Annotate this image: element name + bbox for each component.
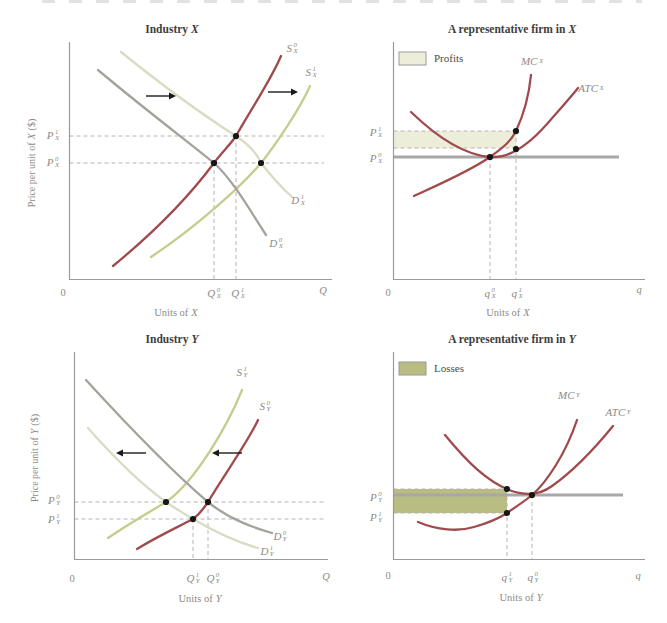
price-label-p1-y: P1Y (48, 513, 60, 525)
sym-sub: X (301, 200, 305, 206)
equilibrium-dot (504, 510, 510, 516)
axis-end-label-q: q (635, 570, 640, 581)
sym-supsub: X (600, 85, 604, 91)
supply-shift-arrow-x (268, 89, 298, 96)
industry-x-axis-caption: Units ofX (154, 307, 198, 318)
curve-label-s1-y: S1Y (237, 366, 248, 378)
sym-supsub: 0X (293, 42, 297, 54)
sym-sub: Y (509, 577, 513, 583)
sym-base: P (47, 156, 54, 168)
sym-supsub: 0X (279, 237, 283, 249)
sym-base: D (260, 545, 268, 557)
sym-supsub: 1Y (378, 511, 382, 523)
curve-label-d0-y: D0Y (273, 530, 286, 542)
sym-supsub: 0Y (283, 530, 287, 542)
sym-supsub: Y (627, 409, 631, 415)
equilibrium-dot (504, 486, 510, 492)
sym-base: P (370, 491, 377, 503)
sym-supsub: 1Y (509, 571, 513, 583)
sym-base: MC (521, 55, 538, 67)
sym-sub: X (378, 132, 382, 138)
price-label-p0-y-firm: P0Y (370, 491, 382, 503)
firm-x-title: A representative firm inX (448, 23, 576, 35)
sym-base: P (370, 511, 377, 523)
sym-sub: X (55, 162, 59, 168)
equilibrium-dot (513, 128, 519, 134)
equilibrium-dot (513, 146, 519, 152)
curve-label-d1-x: D1X (291, 194, 305, 206)
sym-supsub: 0X (491, 287, 495, 299)
sym-base: P (370, 152, 377, 164)
sym-base: S (237, 366, 243, 378)
sym-supsub: 0Y (216, 572, 220, 584)
price-label-p1-y-firm: P1Y (370, 511, 382, 523)
industry-x-plot (70, 42, 333, 280)
sym-sub: X (279, 243, 283, 249)
sym-base: S (260, 400, 266, 412)
industry-y-plot (75, 352, 329, 560)
equilibrium-dot (163, 499, 169, 505)
curve-label-atc-y: ATCY (605, 406, 630, 418)
sym-sub: X (217, 293, 221, 299)
sym-supsub: 1Y (196, 572, 200, 584)
sym-sub: Y (627, 409, 631, 415)
profit-legend-swatch (399, 52, 426, 65)
equilibrium-dot (487, 154, 493, 160)
sym-sub: X (55, 135, 59, 141)
price-label-p1-x-firm: P1X (370, 126, 382, 138)
sym-supsub: 1Y (244, 366, 248, 378)
firm-y-plot (394, 352, 646, 560)
sym-base: D (269, 237, 277, 249)
industry-x-yaxis-label: Price per unit ofX($) (26, 119, 37, 207)
curve-label-s1-x: S1X (305, 66, 316, 78)
sym-base: ATC (578, 82, 598, 94)
qty-label-q0-y: Q0Y (206, 572, 219, 584)
sym-supsub: 0Y (378, 491, 382, 503)
atc-y-curve (445, 426, 613, 494)
demand-d1-x-curve (121, 52, 292, 197)
sym-base: D (291, 194, 299, 206)
sym-base: P (48, 513, 55, 525)
sym-sub: Y (56, 519, 60, 525)
title-variable: Y (191, 333, 198, 345)
qty-label-q1-y: Q1Y (186, 572, 199, 584)
sym-sub: Y (196, 578, 200, 584)
title-text: Industry (145, 23, 188, 35)
sym-sub: Y (270, 551, 274, 557)
demand-d0-x-curve (98, 70, 266, 235)
sym-base: Q (206, 572, 214, 584)
price-label-p0-x: P0X (47, 156, 59, 168)
qty-label-q1-x: Q1X (231, 287, 245, 299)
title-text: A representative firm in (448, 23, 565, 35)
supply-s1-y-curve (108, 390, 242, 538)
industry-y-yaxis-label: Price per unit ofY($) (29, 414, 40, 502)
profits-legend-label: Profits (434, 52, 463, 64)
sym-supsub: 1X (55, 129, 59, 141)
title-text: A representative firm in (448, 333, 565, 345)
sym-sub: X (241, 293, 245, 299)
sym-sub: Y (244, 372, 248, 378)
sym-base: q (484, 287, 490, 299)
figure: IndustryX Price per unit ofX($) S0X S1X … (0, 0, 667, 623)
sym-sub: Y (378, 497, 382, 503)
sym-supsub: 1X (518, 287, 522, 299)
sym-sub: X (378, 158, 382, 164)
sym-base: P (370, 126, 377, 138)
sym-supsub: Y (576, 392, 580, 398)
sym-base: D (273, 530, 281, 542)
sym-sub: Y (283, 536, 287, 542)
sym-sub: X (600, 85, 604, 91)
loss-legend-swatch (399, 362, 426, 375)
origin-label: 0 (385, 570, 390, 581)
sym-base: Q (207, 287, 215, 299)
sym-supsub: X (539, 58, 543, 64)
title-text: Industry (146, 333, 189, 345)
equilibrium-dot (190, 516, 196, 522)
industry-x-title: IndustryX (145, 23, 199, 35)
sym-base: MC (558, 389, 575, 401)
firm-x-axis-caption: Units ofX (486, 307, 530, 318)
sym-sub: Y (267, 406, 271, 412)
axis-end-label-Q: Q (322, 571, 330, 582)
origin-label: 0 (60, 287, 65, 298)
curve-label-mc-y: MCY (558, 389, 580, 401)
